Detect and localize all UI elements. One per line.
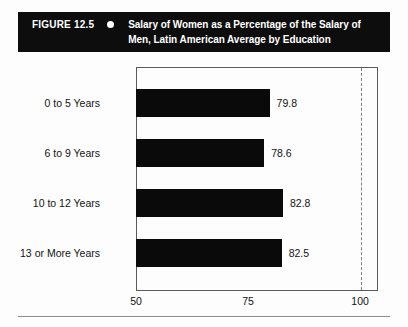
bar-row: 82.513 or More Years (136, 239, 378, 267)
figure-title-line-1: Salary of Women as a Percentage of the S… (128, 19, 361, 30)
figure-title: Salary of Women as a Percentage of the S… (128, 17, 380, 47)
bar (136, 89, 270, 117)
bar-series: 79.80 to 5 Years78.66 to 9 Years82.810 t… (136, 67, 378, 291)
figure-title-line-2: Men, Latin American Average by Education (128, 34, 331, 45)
figure-caption-bar: FIGURE 12.5 Salary of Women as a Percent… (18, 12, 390, 52)
bar-value-label: 78.6 (271, 147, 291, 159)
bar-value-label: 79.8 (277, 97, 297, 109)
category-label: 6 to 9 Years (45, 139, 100, 167)
bar-row: 82.810 to 12 Years (136, 189, 378, 217)
bar (136, 189, 283, 217)
bar (136, 139, 264, 167)
bar-row: 78.66 to 9 Years (136, 139, 378, 167)
filled-circle-icon (107, 21, 114, 28)
category-label: 13 or More Years (20, 239, 100, 267)
category-label: 10 to 12 Years (33, 189, 100, 217)
bar-value-label: 82.5 (289, 247, 309, 259)
bar-value-label: 82.8 (290, 197, 310, 209)
x-tick-label: 100 (351, 295, 369, 307)
footer-divider (18, 316, 390, 317)
x-tick-label: 50 (130, 295, 142, 307)
x-tick-label: 75 (242, 295, 254, 307)
figure-number-label: FIGURE 12.5 (32, 17, 94, 32)
bar (136, 239, 282, 267)
bar-row: 79.80 to 5 Years (136, 89, 378, 117)
category-label: 0 to 5 Years (45, 89, 100, 117)
